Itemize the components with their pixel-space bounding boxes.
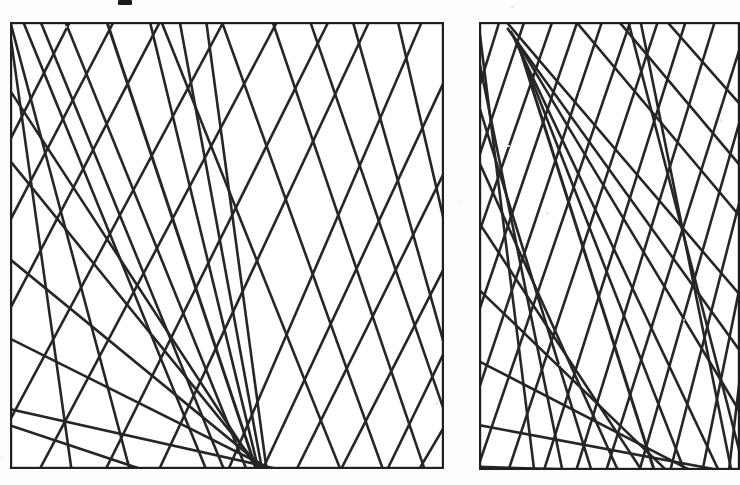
- arrangement-line: [576, 22, 740, 217]
- page-edge-artifact-mark: [118, 0, 132, 5]
- arrangement-line: [388, 355, 443, 469]
- scan-speckle: [460, 201, 463, 204]
- arrangement-line: [419, 426, 444, 468]
- arrangement-line: [11, 161, 262, 469]
- arrangement-line: [40, 22, 224, 469]
- arrangement-line: [11, 22, 160, 307]
- figure-page: [0, 0, 740, 485]
- arrangement-line: [518, 43, 654, 470]
- arrangement-line: [10, 22, 224, 421]
- arrangement-line: [639, 119, 740, 470]
- panel-frame: [480, 23, 739, 469]
- arrangement-line: [65, 22, 246, 469]
- line-arrangement-panel-right: [479, 22, 740, 470]
- arrangement-line: [479, 22, 602, 390]
- arrangement-line: [229, 23, 422, 468]
- arrangement-line: [311, 23, 444, 414]
- line-arrangement-svg-left: [10, 22, 444, 469]
- arrangement-line: [10, 22, 113, 222]
- arrangement-line: [222, 22, 383, 468]
- scan-speckle: [1, 457, 3, 459]
- arrangement-line: [296, 172, 444, 469]
- arrangement-line: [159, 22, 369, 469]
- scan-speckle: [511, 6, 513, 8]
- line-arrangement-panel-left: [10, 22, 444, 469]
- arrangement-line: [23, 23, 205, 469]
- arrangement-line: [107, 22, 257, 469]
- line-arrangement-svg-right: [479, 22, 740, 470]
